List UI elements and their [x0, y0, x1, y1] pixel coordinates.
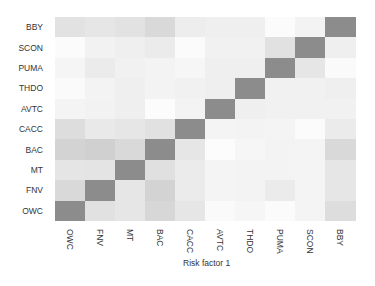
heatmap-cell — [295, 58, 326, 79]
heatmap-cell — [175, 58, 206, 79]
heatmap-cell — [55, 58, 86, 79]
heatmap-cell — [85, 139, 116, 160]
heatmap-cell — [175, 160, 206, 181]
heatmap-cell — [325, 37, 356, 58]
heatmap-cell — [55, 139, 86, 160]
heatmap-cell — [115, 58, 146, 79]
heatmap-cell — [325, 201, 356, 222]
heatmap-cell — [295, 37, 326, 58]
y-tick-label: PUMA — [3, 63, 43, 73]
heatmap-cell — [325, 180, 356, 201]
heatmap-cell — [85, 160, 116, 181]
heatmap-cell — [175, 99, 206, 120]
heatmap-cell — [205, 17, 236, 38]
heatmap-cell — [325, 160, 356, 181]
heatmap-cell — [205, 180, 236, 201]
heatmap-cell — [145, 37, 176, 58]
heatmap-cell — [145, 201, 176, 222]
heatmap-cell — [115, 201, 146, 222]
heatmap-cell — [325, 78, 356, 99]
heatmap-cell — [325, 119, 356, 140]
heatmap-cell — [235, 99, 266, 120]
y-tick-label: CACC — [3, 124, 43, 134]
heatmap-cell — [235, 58, 266, 79]
heatmap-cell — [115, 37, 146, 58]
y-tick-label: SCON — [3, 43, 43, 53]
heatmap-cell — [325, 58, 356, 79]
heatmap-chart: BBYSCONPUMATHDOAVTCCACCBACMTFNVOWC OWCFN… — [0, 0, 375, 286]
y-tick-label: OWC — [3, 206, 43, 216]
heatmap-cell — [145, 139, 176, 160]
heatmap-cell — [85, 37, 116, 58]
x-tick-label: AVTC — [215, 229, 225, 251]
heatmap-cell — [55, 17, 86, 38]
heatmap-cell — [295, 180, 326, 201]
x-tick-label: BBY — [335, 229, 345, 246]
heatmap-cell — [145, 78, 176, 99]
heatmap-cell — [235, 139, 266, 160]
heatmap-cell — [295, 139, 326, 160]
heatmap-cell — [265, 160, 296, 181]
x-tick-label: THDO — [245, 229, 255, 253]
heatmap-cell — [145, 58, 176, 79]
heatmap-cell — [235, 201, 266, 222]
heatmap-cell — [145, 180, 176, 201]
heatmap-cell — [205, 99, 236, 120]
heatmap-cell — [55, 119, 86, 140]
y-tick-label: BAC — [3, 145, 43, 155]
heatmap-cell — [145, 160, 176, 181]
heatmap-cell — [145, 17, 176, 38]
heatmap-cell — [115, 17, 146, 38]
heatmap-cell — [55, 180, 86, 201]
heatmap-cell — [85, 17, 116, 38]
heatmap-cell — [85, 201, 116, 222]
heatmap-cell — [145, 99, 176, 120]
heatmap-cell — [175, 201, 206, 222]
heatmap-cell — [265, 78, 296, 99]
heatmap-cell — [55, 78, 86, 99]
heatmap-cell — [115, 119, 146, 140]
x-tick-label: MT — [125, 229, 135, 241]
x-axis-title: Risk factor 1 — [183, 258, 230, 268]
heatmap-cell — [85, 180, 116, 201]
heatmap-cell — [55, 160, 86, 181]
heatmap-cell — [175, 180, 206, 201]
heatmap-cell — [85, 119, 116, 140]
heatmap-cell — [175, 119, 206, 140]
heatmap-cell — [235, 17, 266, 38]
heatmap-cell — [205, 119, 236, 140]
heatmap-cell — [325, 139, 356, 160]
heatmap-cell — [325, 17, 356, 38]
heatmap-cell — [115, 160, 146, 181]
heatmap-cell — [325, 99, 356, 120]
heatmap-cell — [205, 160, 236, 181]
heatmap-cell — [205, 201, 236, 222]
heatmap-cell — [265, 180, 296, 201]
heatmap-cell — [175, 78, 206, 99]
heatmap-cell — [85, 58, 116, 79]
heatmap-cell — [265, 37, 296, 58]
y-tick-label: AVTC — [3, 104, 43, 114]
heatmap-cell — [175, 139, 206, 160]
heatmap-cell — [205, 78, 236, 99]
heatmap-cell — [235, 37, 266, 58]
heatmap-cell — [85, 99, 116, 120]
heatmap-cell — [115, 139, 146, 160]
heatmap-cell — [55, 99, 86, 120]
heatmap-cell — [85, 78, 116, 99]
heatmap-cell — [115, 180, 146, 201]
heatmap-cell — [175, 17, 206, 38]
x-tick-label: PUMA — [275, 229, 285, 254]
heatmap-cell — [265, 58, 296, 79]
heatmap-cell — [295, 99, 326, 120]
heatmap-cell — [265, 99, 296, 120]
heatmap-cell — [265, 119, 296, 140]
heatmap-cell — [265, 201, 296, 222]
x-tick-label: FNV — [95, 229, 105, 246]
y-tick-label: FNV — [3, 185, 43, 195]
heatmap-cell — [55, 201, 86, 222]
heatmap-cell — [295, 160, 326, 181]
y-tick-label: MT — [3, 165, 43, 175]
heatmap-cell — [205, 58, 236, 79]
x-tick-label: OWC — [65, 229, 75, 250]
